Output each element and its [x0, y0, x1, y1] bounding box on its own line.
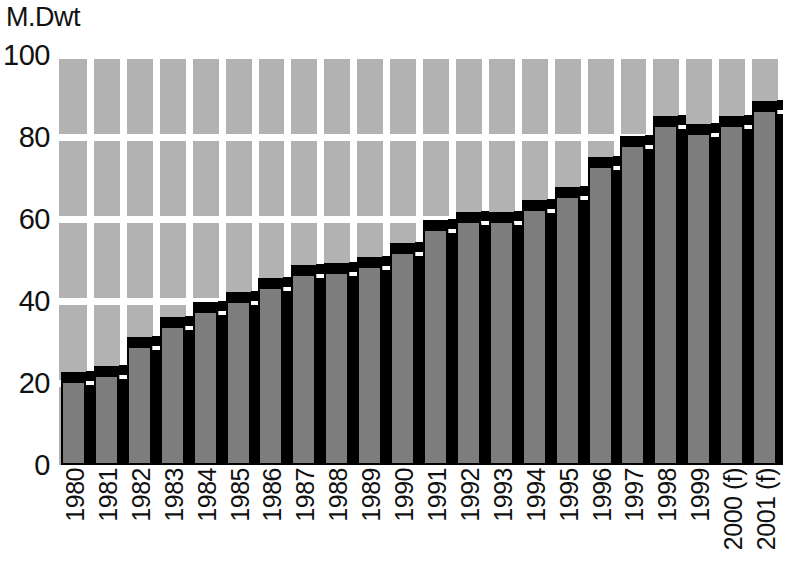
- bar-top-face: [193, 302, 218, 311]
- bar-front-face: [94, 375, 119, 465]
- bar-top-face: [160, 317, 185, 326]
- x-axis-tick-label: 1992: [456, 468, 484, 563]
- x-axis-tick-label-text: 1985: [227, 468, 252, 522]
- bar-top-face: [127, 337, 152, 346]
- x-axis-tick-label-text: 2001 (f): [754, 468, 779, 550]
- x-axis-tick-label: 1983: [160, 468, 188, 563]
- x-axis-tick-label: 1986: [258, 468, 286, 563]
- bar: [719, 125, 744, 465]
- x-axis-tick-label-text: 1993: [490, 468, 515, 522]
- bar: [258, 287, 283, 465]
- x-axis-tick-label-text: 1981: [95, 468, 120, 522]
- bar-front-face: [620, 145, 645, 465]
- bar-top-face: [489, 212, 514, 221]
- bar: [522, 209, 547, 465]
- y-axis-tick-label: 0: [34, 451, 50, 480]
- x-axis-tick-label: 1998: [653, 468, 681, 563]
- x-axis-tick-label: 1994: [522, 468, 550, 563]
- bar-top-face: [357, 257, 382, 266]
- bar-side-face: [119, 379, 127, 465]
- x-axis-tick-label: 1997: [620, 468, 648, 563]
- bar-front-face: [127, 346, 152, 465]
- bar-side-face: [645, 149, 653, 465]
- bar-side-face: [251, 305, 259, 465]
- bar-side-face: [86, 385, 94, 465]
- bar: [357, 266, 382, 465]
- y-axis-unit-label: M.Dwt: [6, 2, 80, 33]
- bar: [588, 166, 613, 465]
- x-axis-tick-label: 1995: [555, 468, 583, 563]
- bar-side-face: [218, 315, 226, 465]
- x-axis-tick-label-text: 1999: [688, 468, 713, 522]
- bar-top-face: [258, 278, 283, 287]
- x-axis-tick-label-text: 1990: [392, 468, 417, 522]
- x-axis-tick-label: 1991: [423, 468, 451, 563]
- bar: [620, 145, 645, 465]
- x-axis-tick-label: 2000 (f): [719, 468, 747, 563]
- x-axis-tick-label-text: 1995: [556, 468, 581, 522]
- bar-side-face: [349, 276, 357, 465]
- bar: [456, 221, 481, 465]
- y-axis-tick-label: 100: [3, 41, 50, 70]
- x-axis-tick-label-text: 1983: [161, 468, 186, 522]
- x-axis-tick-label: 1996: [588, 468, 616, 563]
- bar: [291, 274, 316, 465]
- bar-top-face: [324, 263, 349, 272]
- bar: [193, 311, 218, 465]
- bar-side-face: [316, 278, 324, 465]
- bar: [94, 375, 119, 465]
- bar-top-face: [555, 187, 580, 196]
- bar: [61, 381, 86, 465]
- plot-area: [59, 55, 783, 465]
- bar-top-face: [653, 116, 678, 125]
- bar-top-face: [291, 265, 316, 274]
- x-axis: 1980198119821983198419851986198719881989…: [59, 468, 783, 563]
- bar-top-face: [94, 366, 119, 375]
- bar-top-face: [686, 124, 711, 133]
- x-axis-tick-label: 1989: [357, 468, 385, 563]
- y-axis: 020406080100: [0, 55, 56, 465]
- bar-front-face: [588, 166, 613, 465]
- x-axis-tick-label: 1980: [61, 468, 89, 563]
- bar-side-face: [415, 256, 423, 465]
- bar-front-face: [456, 221, 481, 465]
- bar-front-face: [390, 252, 415, 465]
- bar-front-face: [423, 229, 448, 465]
- bar-side-face: [744, 129, 752, 465]
- x-axis-tick-label-text: 1997: [622, 468, 647, 522]
- bar-side-face: [678, 129, 686, 465]
- bar-top-face: [620, 136, 645, 145]
- x-axis-tick-label-text: 1992: [457, 468, 482, 522]
- bar-side-face: [613, 170, 621, 465]
- bar: [555, 196, 580, 465]
- bar-side-face: [547, 213, 555, 465]
- bar-front-face: [752, 110, 777, 465]
- bar-front-face: [357, 266, 382, 465]
- bar-front-face: [719, 125, 744, 465]
- x-axis-tick-label-text: 1998: [655, 468, 680, 522]
- bar-side-face: [283, 291, 291, 465]
- y-axis-tick-label: 20: [19, 369, 50, 398]
- bar: [160, 326, 185, 465]
- bar-side-face: [382, 270, 390, 465]
- x-axis-tick-label: 1993: [489, 468, 517, 563]
- bar-front-face: [193, 311, 218, 465]
- x-axis-tick-label: 1985: [226, 468, 254, 563]
- bar-front-face: [489, 221, 514, 465]
- x-axis-tick-label-text: 1989: [359, 468, 384, 522]
- bar-side-face: [777, 114, 783, 465]
- y-axis-tick-label: 40: [19, 287, 50, 316]
- x-axis-tick-label: 1999: [686, 468, 714, 563]
- bar: [324, 272, 349, 465]
- bar-chart: M.Dwt 020406080100 198019811982198319841…: [0, 0, 785, 563]
- bar: [653, 125, 678, 465]
- x-axis-tick-label-text: 1987: [293, 468, 318, 522]
- bar-side-face: [481, 225, 489, 465]
- bar-side-face: [448, 233, 456, 465]
- x-axis-tick-label-text: 1996: [589, 468, 614, 522]
- bar: [423, 229, 448, 465]
- bar-side-face: [152, 350, 160, 465]
- x-axis-tick-label-text: 1991: [425, 468, 450, 522]
- bar-top-face: [752, 101, 777, 110]
- bar-front-face: [61, 381, 86, 465]
